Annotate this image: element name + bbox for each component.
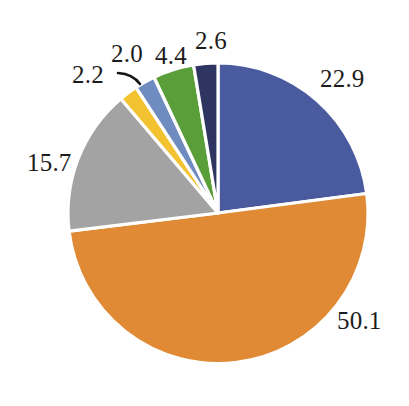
pie-slices-group [68,63,368,363]
pie-chart-canvas [0,0,409,406]
pie-value-label-4-4: 4.4 [155,43,187,68]
pie-chart: 22.950.115.72.02.24.42.6 [0,0,409,406]
leader-line-2-0 [118,73,140,84]
pie-value-label-2-2: 2.2 [72,62,104,87]
pie-value-label-2-6: 2.6 [195,28,227,53]
pie-value-label-22-9: 22.9 [320,66,365,91]
pie-value-label-50-1: 50.1 [337,308,382,333]
pie-value-label-2-0: 2.0 [111,41,143,66]
leader-line-group [118,73,140,84]
pie-value-label-15-7: 15.7 [27,150,72,175]
